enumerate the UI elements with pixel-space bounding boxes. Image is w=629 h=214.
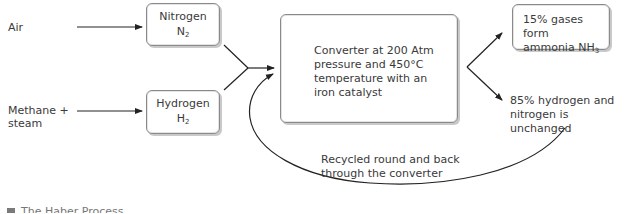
hydrogen-formula: H2 (147, 112, 219, 126)
unchanged-line1: 85% hydrogen and (510, 94, 629, 108)
ammonia-formula-sub: 3 (595, 47, 599, 55)
converter-line2: pressure and 450°C (314, 58, 434, 72)
recycle-line1: Recycled round and back (321, 153, 460, 167)
hydrogen-name: Hydrogen (147, 97, 219, 111)
hydrogen-box: Hydrogen H2 (146, 90, 220, 134)
ammonia-line1: 15% gases form (523, 13, 609, 41)
converter-line3: temperature with an (314, 72, 434, 86)
to-unchanged-arrow (467, 67, 502, 100)
unchanged-line2: nitrogen is unchanged (510, 108, 629, 136)
hydrogen-formula-sub: 2 (185, 118, 189, 126)
ammonia-text: 15% gases form ammonia NH3 (523, 13, 609, 55)
to-ammonia-arrow (467, 33, 502, 67)
figure-caption: The Haber Process (7, 205, 123, 213)
nitrogen-box: Nitrogen N2 (146, 3, 220, 46)
nitrogen-formula: N2 (147, 25, 219, 39)
ammonia-line2: ammonia NH3 (523, 41, 609, 55)
converter-text: Converter at 200 Atm pressure and 450°C … (314, 44, 434, 100)
converter-line4: iron catalyst (314, 86, 434, 100)
hydrogen-formula-base: H (177, 112, 185, 125)
ammonia-box: 15% gases form ammonia NH3 (512, 4, 610, 50)
unchanged-gases-label: 85% hydrogen and nitrogen is unchanged (510, 94, 629, 136)
nitrogen-merge-line (224, 45, 248, 68)
nitrogen-name: Nitrogen (147, 10, 219, 24)
converter-line1: Converter at 200 Atm (314, 44, 434, 58)
nitrogen-formula-base: N (177, 25, 185, 38)
caption-text: The Haber Process (21, 205, 123, 213)
hydrogen-merge-line (224, 68, 248, 90)
input-methane-label: Methane + steam (8, 104, 69, 130)
recycle-label: Recycled round and back through the conv… (321, 153, 460, 181)
input-air-label: Air (8, 21, 23, 34)
input-methane-line1: Methane + (8, 104, 69, 117)
ammonia-line2-prefix: ammonia NH (523, 41, 595, 54)
nitrogen-formula-sub: 2 (185, 31, 189, 39)
recycle-line2: through the converter (321, 167, 460, 181)
converter-box: Converter at 200 Atm pressure and 450°C … (280, 14, 458, 123)
input-methane-line2: steam (8, 117, 69, 130)
square-marker-icon (7, 208, 15, 214)
